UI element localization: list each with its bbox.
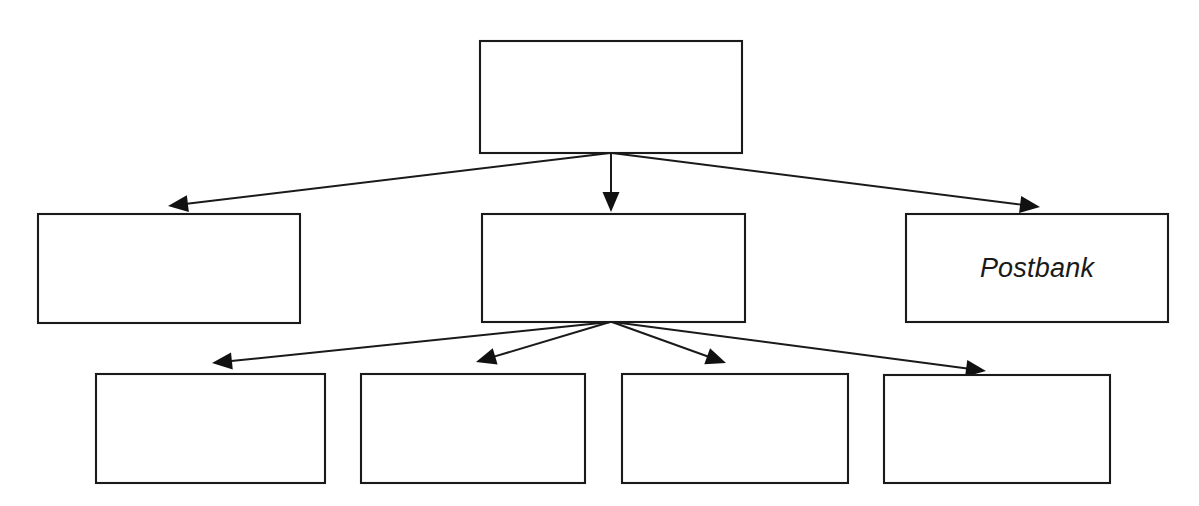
node-child-left[interactable] (38, 214, 300, 323)
node-box[interactable] (96, 374, 325, 483)
node-box[interactable] (480, 41, 742, 153)
node-box[interactable] (38, 214, 300, 323)
node-grandchild-3[interactable] (622, 374, 848, 483)
node-box[interactable] (482, 214, 745, 322)
node-child-right[interactable]: Postbank (906, 214, 1168, 322)
node-box[interactable] (361, 374, 585, 483)
diagram-canvas: Postbank (0, 0, 1199, 506)
node-label: Postbank (980, 253, 1095, 283)
node-grandchild-4[interactable] (884, 375, 1110, 483)
node-box[interactable] (884, 375, 1110, 483)
node-grandchild-1[interactable] (96, 374, 325, 483)
node-box[interactable] (622, 374, 848, 483)
hierarchy-diagram: Postbank (0, 0, 1199, 506)
node-grandchild-2[interactable] (361, 374, 585, 483)
node-root[interactable] (480, 41, 742, 153)
node-child-center[interactable] (482, 214, 745, 322)
